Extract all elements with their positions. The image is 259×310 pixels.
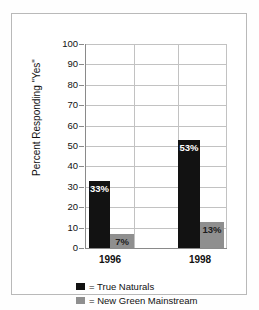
- bar-true-naturals-1998[interactable]: 53%: [178, 140, 200, 248]
- chart-figure: Percent Responding "Yes" 100 90 80 70 60…: [0, 0, 259, 310]
- x-tick-label-1998: 1998: [175, 254, 225, 265]
- bar-value-label: 13%: [200, 224, 224, 235]
- y-tick-label: 70: [52, 100, 78, 110]
- gridline-horizontal: [85, 105, 227, 106]
- y-tick-label: 0: [52, 243, 78, 253]
- plot-area: 33% 7% 53% 13%: [85, 44, 227, 248]
- y-tick-mark: [79, 44, 84, 45]
- gridline-vertical: [134, 44, 135, 248]
- x-tick-label-1996: 1996: [85, 254, 135, 265]
- y-tick-mark: [79, 187, 84, 188]
- gridline-horizontal: [85, 166, 227, 167]
- chart-frame: Percent Responding "Yes" 100 90 80 70 60…: [11, 13, 247, 295]
- y-tick-label: 40: [52, 161, 78, 171]
- legend-label: = True Naturals: [89, 281, 154, 292]
- y-axis-tick-labels: 100 90 80 70 60 50 40 30 20 10 0: [50, 44, 78, 248]
- legend-item-new-green-mainstream[interactable]: = New Green Mainstream: [76, 294, 236, 307]
- y-tick-label: 30: [52, 182, 78, 192]
- gridline-horizontal: [85, 44, 227, 45]
- bar-value-label: 7%: [110, 236, 134, 247]
- chart-legend: = True Naturals = New Green Mainstream: [76, 280, 236, 308]
- legend-label: = New Green Mainstream: [89, 295, 198, 306]
- gridline-vertical: [226, 44, 227, 248]
- gridline-horizontal: [85, 126, 227, 127]
- y-axis-title: Percent Responding "Yes": [31, 38, 42, 198]
- legend-swatch-icon: [76, 297, 85, 304]
- y-tick-mark: [79, 146, 84, 147]
- legend-swatch-icon: [76, 283, 85, 290]
- gridline-horizontal: [85, 85, 227, 86]
- y-tick-label: 80: [52, 80, 78, 90]
- gridline-horizontal: [85, 64, 227, 65]
- y-tick-label: 90: [52, 59, 78, 69]
- gridline-horizontal: [85, 146, 227, 147]
- y-tick-label: 100: [52, 39, 78, 49]
- y-tick-mark: [79, 105, 84, 106]
- legend-item-true-naturals[interactable]: = True Naturals: [76, 280, 236, 293]
- y-tick-mark: [79, 207, 84, 208]
- bar-new-green-mainstream-1996[interactable]: 7%: [110, 234, 134, 248]
- y-tick-mark: [79, 126, 84, 127]
- y-tick-mark: [79, 85, 84, 86]
- y-tick-label: 20: [52, 202, 78, 212]
- y-tick-mark: [79, 228, 84, 229]
- y-tick-mark: [79, 166, 84, 167]
- axis-baseline: [85, 248, 227, 249]
- y-tick-label: 50: [52, 141, 78, 151]
- y-tick-mark: [79, 248, 84, 249]
- y-tick-label: 60: [52, 121, 78, 131]
- bar-new-green-mainstream-1998[interactable]: 13%: [200, 222, 224, 249]
- bar-true-naturals-1996[interactable]: 33%: [89, 181, 110, 248]
- bar-value-label: 53%: [178, 142, 200, 153]
- y-tick-label: 10: [52, 223, 78, 233]
- y-tick-mark: [79, 64, 84, 65]
- axis-left: [85, 44, 86, 248]
- bar-value-label: 33%: [89, 183, 110, 194]
